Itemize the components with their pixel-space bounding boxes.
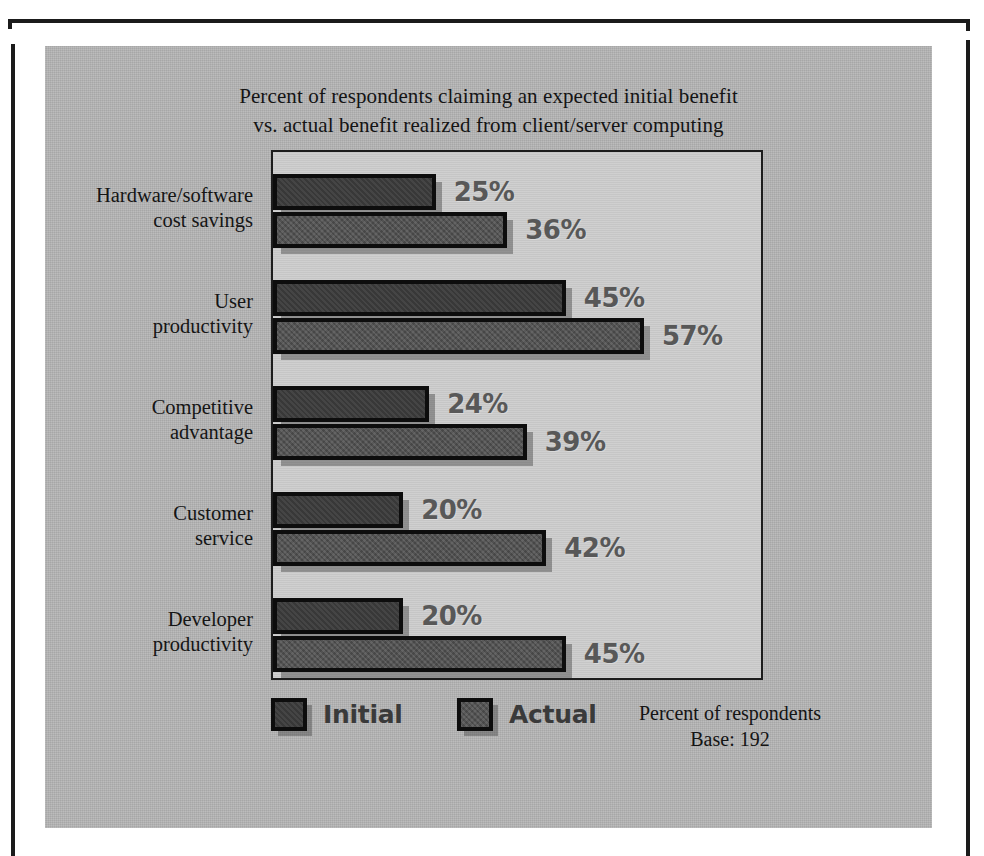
bar-group-row: 57% (273, 318, 761, 354)
bar-group-row: 45% (273, 636, 761, 672)
footnote-line-1: Percent of respondents (580, 700, 880, 726)
category-label: Userproductivity (45, 289, 253, 339)
chart-panel: Percent of respondents claiming an expec… (45, 46, 932, 828)
category-label-line: Hardware/software (45, 183, 253, 208)
category-label-line: service (45, 526, 253, 551)
plot-area: 25%36%45%57%24%39%20%42%20%45% (271, 150, 763, 680)
printed-page: Percent of respondents claiming an expec… (0, 0, 984, 856)
bar-initial[interactable] (273, 174, 436, 210)
category-label: Competitiveadvantage (45, 395, 253, 445)
bar-group-row: 42% (273, 530, 761, 566)
bar-initial[interactable] (273, 492, 403, 528)
bar-initial[interactable] (273, 386, 429, 422)
bar-actual[interactable] (273, 424, 527, 460)
bar-actual[interactable] (273, 530, 546, 566)
category-label: Customerservice (45, 501, 253, 551)
chart-title-line-1: Percent of respondents claiming an expec… (239, 84, 738, 108)
page-top-rule (8, 19, 970, 23)
page-rule-tick-right (966, 19, 970, 31)
category-label: Hardware/softwarecost savings (45, 183, 253, 233)
category-label-line: Competitive (45, 395, 253, 420)
legend-swatch-initial (271, 698, 307, 731)
category-label-line: Developer (45, 607, 253, 632)
bar-value-label: 25% (454, 177, 515, 207)
bar-group-row: 24% (273, 386, 761, 422)
bar-value-label: 57% (662, 321, 723, 351)
chart-title-line-2: vs. actual benefit realized from client/… (45, 111, 932, 140)
chart-footnote: Percent of respondents Base: 192 (580, 700, 880, 752)
category-label-line: productivity (45, 632, 253, 657)
bar-actual[interactable] (273, 318, 644, 354)
bar-group-row: 20% (273, 492, 761, 528)
legend-item-actual[interactable]: Actual (457, 698, 597, 731)
bar-actual[interactable] (273, 636, 566, 672)
bar-actual[interactable] (273, 212, 507, 248)
bar-value-label: 20% (421, 601, 482, 631)
page-vertical-rule-right (966, 40, 970, 856)
footnote-line-2: Base: 192 (580, 726, 880, 752)
bar-group-row: 36% (273, 212, 761, 248)
bar-group-row: 25% (273, 174, 761, 210)
legend-item-initial[interactable]: Initial (271, 698, 403, 731)
bar-group-row: 39% (273, 424, 761, 460)
bar-value-label: 45% (584, 283, 645, 313)
bar-initial[interactable] (273, 280, 566, 316)
chart-legend: InitialActual (271, 698, 631, 748)
bar-value-label: 39% (545, 427, 606, 457)
category-label-line: advantage (45, 420, 253, 445)
category-axis-labels: Hardware/softwarecost savingsUserproduct… (45, 150, 253, 680)
legend-label: Initial (323, 700, 403, 729)
legend-swatch-actual (457, 698, 493, 731)
bar-initial[interactable] (273, 598, 403, 634)
chart-title: Percent of respondents claiming an expec… (45, 82, 932, 140)
bar-group-row: 20% (273, 598, 761, 634)
category-label-line: Customer (45, 501, 253, 526)
category-label: Developerproductivity (45, 607, 253, 657)
bar-value-label: 20% (421, 495, 482, 525)
bar-value-label: 42% (564, 533, 625, 563)
bar-value-label: 24% (447, 389, 508, 419)
bar-value-label: 45% (584, 639, 645, 669)
page-rule-tick-left (8, 19, 12, 29)
bar-value-label: 36% (525, 215, 586, 245)
page-vertical-rule-left (11, 44, 15, 856)
bar-group-row: 45% (273, 280, 761, 316)
category-label-line: productivity (45, 314, 253, 339)
category-label-line: cost savings (45, 208, 253, 233)
category-label-line: User (45, 289, 253, 314)
